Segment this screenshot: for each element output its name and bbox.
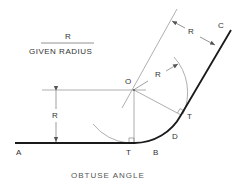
obtuse-angle-diagram (0, 0, 240, 183)
radius-to-tangent-slanted (134, 90, 181, 115)
legend-denominator: GIVEN RADIUS (29, 48, 92, 56)
label-point-d: D (172, 133, 178, 141)
construction-parallel-line (122, 9, 177, 108)
center-point-o (133, 89, 135, 91)
label-point-t-lower: T (126, 149, 131, 157)
compass-arc-lower (93, 124, 128, 143)
dimension-offset-r (172, 21, 185, 28)
label-dimension-vertical-r: R (52, 112, 58, 120)
label-dimension-offset-r: R (188, 28, 194, 36)
label-dimension-arc-r: R (155, 71, 161, 79)
diagram-caption: OBTUSE ANGLE (71, 172, 145, 180)
legend-numerator: R (65, 33, 71, 41)
label-point-t-upper: T (187, 113, 192, 121)
label-point-b: B (153, 149, 159, 157)
dimension-arc-r (135, 81, 148, 89)
label-point-a: A (16, 149, 22, 157)
label-point-c: C (218, 22, 224, 30)
compass-arc-upper (174, 57, 188, 114)
label-point-o: O (125, 78, 132, 86)
